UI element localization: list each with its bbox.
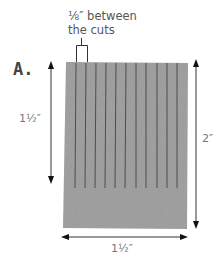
left-height-label: 1½″: [19, 113, 41, 124]
figure-letter: A.: [13, 61, 33, 78]
diagram-svg: [0, 0, 224, 266]
callout-bracket: [77, 38, 88, 62]
bottom-width-label: 1½″: [111, 243, 133, 254]
right-height-label: 2″: [202, 133, 213, 144]
bottom-dimension-arrow: [61, 234, 188, 240]
diagram-canvas: ⅛″ between the cuts A. 1½″ 2″ 1½″: [0, 0, 224, 266]
right-dimension-arrow: [193, 59, 199, 229]
left-dimension-arrow: [48, 61, 54, 184]
callout-line-1: ⅛″ between: [68, 9, 137, 23]
cut-spacing-callout: ⅛″ between the cuts: [68, 9, 137, 37]
callout-line-2: the cuts: [68, 23, 137, 37]
